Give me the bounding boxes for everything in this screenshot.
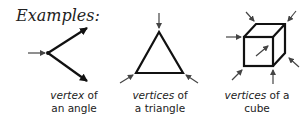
angle-figure: [28, 28, 87, 81]
cube-caption: vertices of a cube: [212, 89, 302, 115]
triangle-caption: vertices of a triangle: [129, 89, 191, 115]
angle-caption: vertex of an angle: [44, 89, 104, 115]
triangle-figure: [120, 13, 198, 83]
cube-figure: [226, 11, 299, 84]
